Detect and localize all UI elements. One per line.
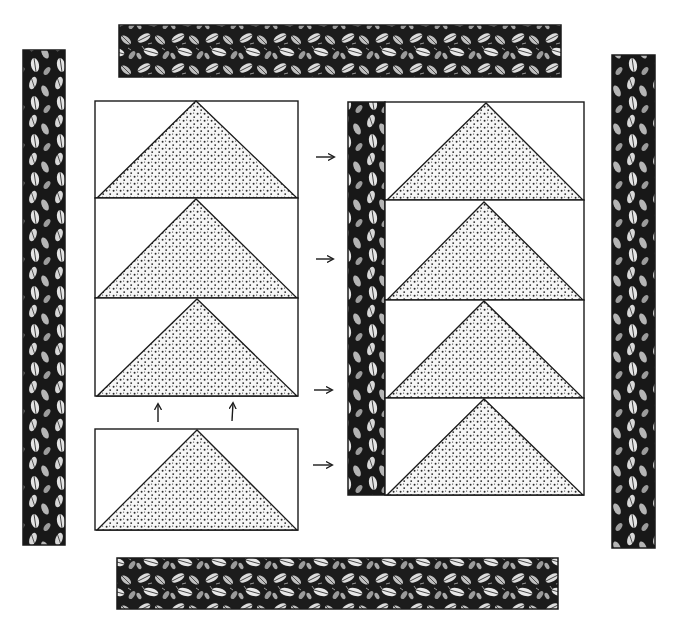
right-assembly <box>348 102 584 495</box>
goose-block <box>95 198 298 298</box>
left-border-strip <box>23 50 65 545</box>
goose-block <box>385 200 584 300</box>
quilt-assembly-diagram: Flying geese block assembly with leaf-pr… <box>0 0 675 622</box>
goose-block <box>95 101 298 198</box>
assembly-sashing-strip <box>348 102 385 495</box>
goose-block <box>385 398 584 495</box>
left-geese-stack <box>95 101 298 396</box>
arrow-up-icon <box>232 403 233 421</box>
right-arrows <box>313 157 334 465</box>
top-border-strip <box>119 25 561 77</box>
up-arrows <box>158 403 233 422</box>
bottom-border-strip <box>117 558 558 609</box>
goose-block <box>385 300 584 398</box>
loose-goose-block <box>95 429 298 530</box>
goose-block <box>385 102 584 200</box>
diagram-canvas <box>0 0 675 622</box>
right-border-strip <box>612 55 655 548</box>
goose-block <box>95 298 298 396</box>
